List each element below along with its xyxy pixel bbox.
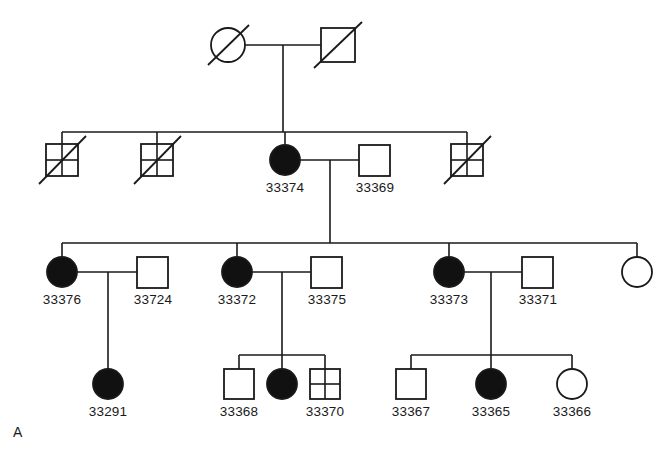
individual-i-2[interactable] xyxy=(314,22,362,68)
individual-33369[interactable] xyxy=(359,145,390,176)
female-circle-symbol xyxy=(622,257,652,287)
individual-33373[interactable] xyxy=(434,257,464,287)
individual-iv-3[interactable] xyxy=(267,369,297,399)
individual-ii-5[interactable] xyxy=(444,136,491,184)
individual-33368[interactable] xyxy=(224,369,254,399)
generation-4-group xyxy=(93,355,587,399)
individual-33372[interactable] xyxy=(222,257,252,287)
individual-33365[interactable] xyxy=(476,369,506,399)
id-label: 33724 xyxy=(134,292,173,307)
male-square-symbol xyxy=(396,369,426,399)
individual-33375[interactable] xyxy=(311,257,342,288)
pedigree-figure: 33374 33369 33376 33724 33372 33375 3337… xyxy=(0,0,667,457)
male-square-symbol xyxy=(522,257,553,288)
individual-33376[interactable] xyxy=(47,257,77,287)
id-label: 33368 xyxy=(220,404,259,419)
female-circle-symbol-affected xyxy=(270,145,300,175)
id-label: 33372 xyxy=(218,292,257,307)
id-label: 33370 xyxy=(306,404,345,419)
id-label: 33374 xyxy=(266,180,305,195)
id-label: 33365 xyxy=(472,404,511,419)
pedigree-canvas: 33374 33369 33376 33724 33372 33375 3337… xyxy=(0,0,667,457)
id-label: 33373 xyxy=(430,292,469,307)
individual-i-1[interactable] xyxy=(208,25,249,65)
individual-33371[interactable] xyxy=(522,257,553,288)
male-square-symbol xyxy=(359,145,390,176)
female-circle-symbol-affected xyxy=(476,369,506,399)
individual-iii-7[interactable] xyxy=(622,257,652,287)
id-label: 33291 xyxy=(89,404,128,419)
id-label: 33367 xyxy=(392,404,431,419)
individual-ii-1[interactable] xyxy=(39,136,86,184)
female-circle-symbol-affected xyxy=(434,257,464,287)
female-circle-symbol-affected xyxy=(267,369,297,399)
individual-ii-2[interactable] xyxy=(134,136,181,184)
female-circle-symbol-affected xyxy=(93,369,123,399)
id-label: 33375 xyxy=(308,292,347,307)
male-square-symbol xyxy=(137,257,168,288)
male-square-symbol xyxy=(311,257,342,288)
id-label: 33366 xyxy=(553,404,592,419)
id-label: 33369 xyxy=(356,180,395,195)
individual-33374[interactable] xyxy=(270,145,300,175)
individual-33291[interactable] xyxy=(93,369,123,399)
female-circle-symbol-affected xyxy=(47,257,77,287)
generation-1-group xyxy=(208,22,362,132)
female-circle-symbol xyxy=(557,369,587,399)
individual-33724[interactable] xyxy=(137,257,168,288)
individual-33370[interactable] xyxy=(310,369,340,399)
id-label: 33371 xyxy=(519,292,558,307)
panel-letter: A xyxy=(13,424,22,440)
male-square-symbol xyxy=(224,369,254,399)
id-label: 33376 xyxy=(43,292,82,307)
individual-33366[interactable] xyxy=(557,369,587,399)
individual-33367[interactable] xyxy=(396,369,426,399)
female-circle-symbol-affected xyxy=(222,257,252,287)
